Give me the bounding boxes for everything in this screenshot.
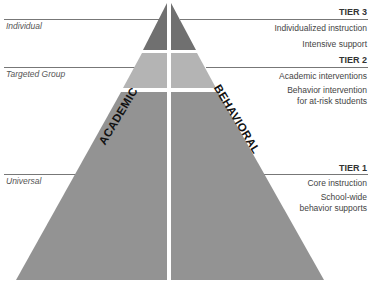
individual-label: Individual bbox=[6, 21, 42, 31]
universal-label: Universal bbox=[6, 176, 41, 186]
tier2-line-3: for at-risk students bbox=[297, 95, 367, 107]
tier3-behavioral bbox=[171, 3, 196, 50]
tier2-title: TIER 2 bbox=[339, 55, 367, 65]
tier2-academic bbox=[123, 53, 167, 88]
tier2-behavioral bbox=[171, 53, 216, 88]
tier1-title: TIER 1 bbox=[339, 163, 367, 173]
tier1-behavioral bbox=[171, 92, 324, 280]
tier3-line-1: Individualized instruction bbox=[274, 22, 367, 34]
tier3-title: TIER 3 bbox=[339, 7, 367, 17]
tier1-line-1: Core instruction bbox=[307, 177, 367, 189]
tier2-line-1: Academic interventions bbox=[279, 70, 367, 82]
tier3-academic bbox=[143, 3, 167, 50]
tier3-line-2: Intensive support bbox=[302, 38, 367, 50]
targeted-group-label: Targeted Group bbox=[6, 69, 65, 79]
tier1-academic bbox=[16, 92, 167, 280]
tier1-line-3: behavior supports bbox=[299, 202, 367, 214]
